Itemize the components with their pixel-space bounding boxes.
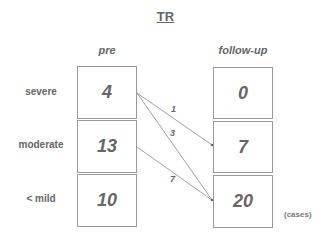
flow-arrows bbox=[0, 0, 331, 237]
pre-severe-box: 4 bbox=[77, 66, 137, 119]
follow-up-severe-box: 0 bbox=[213, 67, 273, 119]
follow-up-moderate-box: 7 bbox=[213, 121, 273, 173]
pre-moderate-box: 13 bbox=[77, 120, 137, 173]
flow-label-moderate-to-mild: 7 bbox=[170, 174, 175, 184]
unit-label: (cases) bbox=[284, 210, 312, 219]
flow-label-severe-to-mild: 3 bbox=[170, 128, 175, 138]
follow-up-mild-box: 20 bbox=[213, 175, 273, 228]
flow-label-severe-to-moderate: 1 bbox=[171, 104, 176, 114]
pre-mild-box: 10 bbox=[77, 174, 137, 227]
